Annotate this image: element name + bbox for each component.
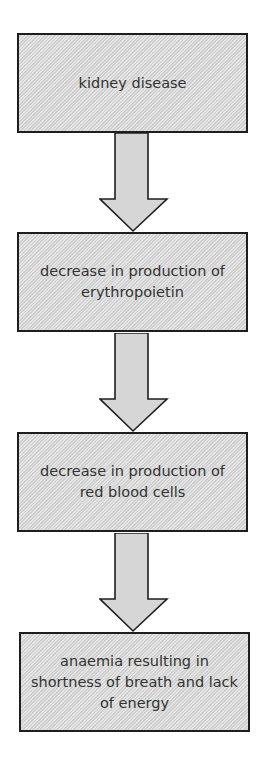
step-label: decrease in production of erythropoietin — [19, 261, 246, 303]
step-label: kidney disease — [71, 73, 195, 94]
step-box-kidney-disease: kidney disease — [17, 33, 248, 133]
step-box-anaemia: anaemia resulting in shortness of breath… — [19, 632, 250, 732]
step-label: decrease in production of red blood cell… — [19, 461, 246, 503]
down-arrow-icon — [99, 133, 169, 233]
step-label: anaemia resulting in shortness of breath… — [21, 651, 248, 714]
step-box-red-blood-cells: decrease in production of red blood cell… — [17, 432, 248, 532]
down-arrow-icon — [99, 533, 169, 633]
step-box-erythropoietin: decrease in production of erythropoietin — [17, 232, 248, 332]
down-arrow-icon — [99, 333, 169, 433]
